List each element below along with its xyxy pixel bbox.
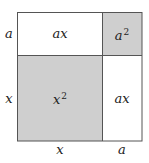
cell-label-bottom-left-exponent: 2 bbox=[61, 91, 67, 101]
cell-label-top-left: ax bbox=[52, 27, 67, 40]
cell-label-top-right-exponent: 2 bbox=[124, 27, 130, 37]
cell-label-bottom-left: x2 bbox=[53, 90, 67, 106]
cell-label-bottom-right: ax bbox=[114, 92, 129, 105]
side-label-bottom-left: x bbox=[56, 143, 63, 156]
cell-label-top-right-base: a bbox=[115, 28, 123, 43]
side-label-left-bottom: x bbox=[5, 92, 12, 105]
side-label-left-top: a bbox=[5, 27, 13, 40]
cell-label-bottom-left-base: x bbox=[53, 92, 60, 107]
cell-label-top-right: a2 bbox=[115, 26, 130, 42]
square-diagram bbox=[0, 0, 149, 163]
side-label-bottom-right: a bbox=[118, 143, 126, 156]
